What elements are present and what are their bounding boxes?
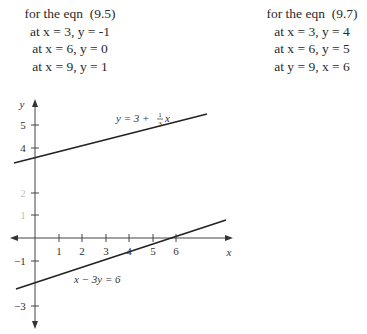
line-series-lower: x − 3y = 6 — [16, 220, 226, 289]
x-tick-label-6: 6 — [173, 245, 179, 257]
graph: 1 2 3 4 5 6 x y 5 4 2 1 −1 −3 y = 3 + 1 … — [0, 0, 367, 334]
upper-line-frac-num: 1 — [158, 111, 162, 119]
y-axis-up-arrow-icon — [32, 99, 38, 107]
line-series-upper: y = 3 + 1 3 x — [14, 111, 207, 163]
x-tick-label-1: 1 — [56, 245, 62, 257]
upper-line-label: y = 3 + — [115, 112, 149, 124]
y-tick-label-1: 1 — [20, 209, 26, 221]
x-axis-label: x — [226, 246, 232, 258]
y-tick-label-neg3: −3 — [14, 300, 26, 312]
y-tick-label-4: 4 — [20, 142, 26, 154]
x-axis-left-arrow-icon — [10, 235, 18, 241]
x-tick-label-5: 5 — [150, 245, 156, 257]
y-axis-label: y — [19, 98, 25, 110]
x-tick-label-2: 2 — [79, 245, 85, 257]
x-tick-label-3: 3 — [103, 245, 109, 257]
y-tick-label-neg1: −1 — [14, 255, 26, 267]
upper-line-label-x: x — [164, 112, 170, 124]
lower-line-label: x − 3y = 6 — [73, 273, 121, 285]
y-axis: y 5 4 2 1 −1 −3 — [14, 98, 39, 329]
y-tick-label-2: 2 — [20, 187, 26, 199]
upper-line-frac-den: 3 — [158, 120, 162, 128]
y-tick-label-5: 5 — [20, 119, 26, 131]
y-axis-down-arrow-icon — [32, 321, 38, 329]
x-axis-right-arrow-icon — [225, 235, 233, 241]
